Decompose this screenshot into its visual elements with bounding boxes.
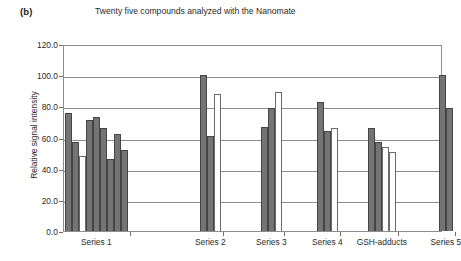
y-tick-label: 20.0 <box>14 196 58 206</box>
category-label: Series 1 <box>81 237 112 247</box>
y-tick-label: 60.0 <box>14 134 58 144</box>
category-tick <box>398 232 399 236</box>
gridline <box>64 77 441 78</box>
bar <box>446 108 453 231</box>
gridline <box>64 140 441 141</box>
category-label: Series 2 <box>195 237 226 247</box>
category-tick <box>284 232 285 236</box>
chart-title: Twenty five compounds analyzed with the … <box>95 6 425 16</box>
panel-label: (b) <box>20 6 32 17</box>
y-tick-label: 100.0 <box>14 71 58 81</box>
category-label: Series 4 <box>312 237 343 247</box>
gridline <box>64 108 441 109</box>
category-tick <box>340 232 341 236</box>
category-tick <box>130 232 131 236</box>
y-tick-label: 0.0 <box>14 227 58 237</box>
category-label: Series 3 <box>256 237 287 247</box>
y-tick-label: 40.0 <box>14 165 58 175</box>
y-tick-label: 120.0 <box>14 40 58 50</box>
gridline <box>64 171 441 172</box>
category-tick <box>455 232 456 236</box>
category-label: Series 5 <box>430 237 461 247</box>
plot-area <box>63 45 442 232</box>
category-tick <box>223 232 224 236</box>
category-label: GSH-adducts <box>357 237 407 247</box>
y-tick-mark <box>59 232 63 233</box>
y-tick-label: 80.0 <box>14 102 58 112</box>
gridline <box>64 202 441 203</box>
